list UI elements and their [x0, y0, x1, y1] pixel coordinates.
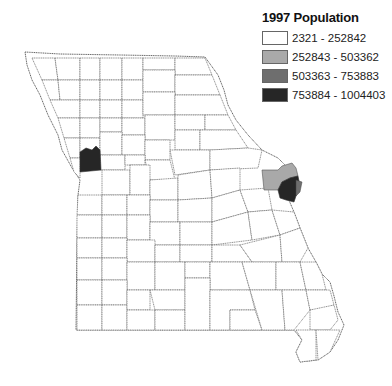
legend-label: 753884 - 1004403 — [292, 89, 385, 101]
legend-title: 1997 Population — [262, 10, 390, 25]
legend-label: 503363 - 753883 — [292, 70, 379, 82]
county-jackson-highlight — [80, 146, 101, 172]
legend-swatch — [262, 31, 288, 45]
legend-swatch — [262, 88, 288, 102]
legend-item: 252843 - 503362 — [262, 47, 390, 66]
legend-item: 503363 - 753883 — [262, 66, 390, 85]
legend-swatch — [262, 69, 288, 83]
county-st-louis-city-highlight — [296, 180, 302, 196]
legend-item: 2321 - 252842 — [262, 28, 390, 47]
legend-label: 252843 - 503362 — [292, 51, 379, 63]
legend-label: 2321 - 252842 — [292, 32, 366, 44]
legend: 1997 Population 2321 - 252842 252843 - 5… — [262, 10, 390, 104]
legend-item: 753884 - 1004403 — [262, 85, 390, 104]
legend-swatch — [262, 50, 288, 64]
